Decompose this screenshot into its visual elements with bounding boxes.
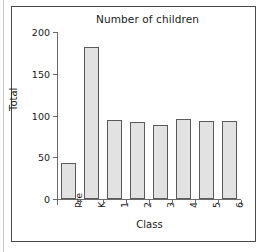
y-tick [53,74,57,75]
plot-area: Number of children Total Class 050100150… [12,7,255,241]
y-tick [53,116,57,117]
page-left-rule [3,0,4,252]
bar [107,120,122,199]
x-tick-label: 4 [188,202,199,208]
x-axis-label: Class [12,219,255,230]
y-tick-label: 200 [32,27,50,38]
bar [130,122,145,199]
chart-page: Number of children Total Class 050100150… [0,0,268,252]
x-tick-label: 6 [234,202,245,208]
y-tick [53,157,57,158]
x-tick [218,200,219,205]
bars-layer [57,32,241,199]
y-tick [53,32,57,33]
chart-frame: Number of children Total Class 050100150… [11,6,256,242]
x-tick-label: 5 [211,202,222,208]
y-tick-label: 100 [32,110,50,121]
x-tick [195,200,196,205]
y-axis-label: Total [8,88,19,111]
x-tick [172,200,173,205]
bar [199,121,214,199]
x-tick [126,200,127,205]
bar [176,119,191,199]
bar [84,47,99,199]
x-tick-label: 1 [119,202,130,208]
y-tick-label: 50 [38,152,50,163]
x-tick [103,200,104,205]
x-tick [149,200,150,205]
x-tick-label: 3 [165,202,176,208]
y-tick-label: 0 [44,194,50,205]
x-tick [57,200,58,205]
x-tick [80,200,81,205]
x-tick-label: K [96,202,107,208]
x-tick-label: Pre [73,193,84,208]
bar [153,125,168,199]
chart-title: Number of children [12,13,255,25]
bar [222,121,237,199]
axes: 050100150200 PreK123456 [57,32,241,199]
x-tick-label: 2 [142,202,153,208]
y-tick-label: 150 [32,68,50,79]
